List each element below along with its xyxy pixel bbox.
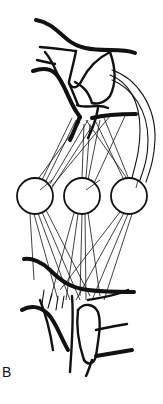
node-right	[111, 178, 147, 214]
node-group	[17, 178, 147, 214]
lower-projections	[30, 210, 132, 300]
upper-structure	[33, 20, 155, 182]
lower-structure	[22, 259, 134, 376]
diagram-canvas	[0, 0, 163, 404]
diagram-figure: B	[0, 0, 163, 404]
panel-label: B	[2, 364, 11, 380]
